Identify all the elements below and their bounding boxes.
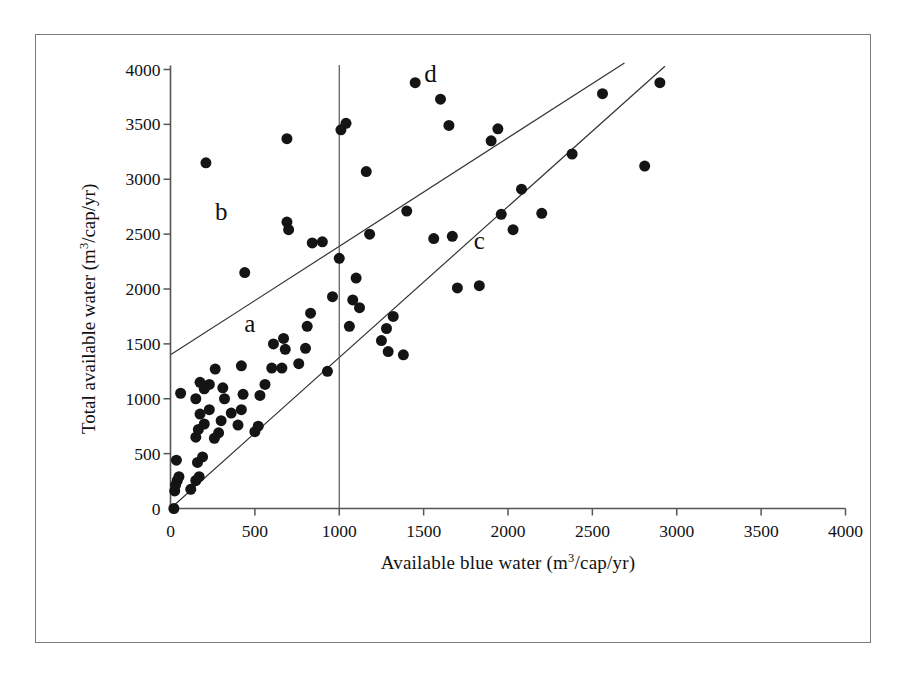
data-point (253, 421, 264, 432)
data-point (238, 389, 249, 400)
data-point (447, 231, 458, 242)
data-point (278, 333, 289, 344)
data-point (195, 377, 206, 388)
data-point (496, 209, 507, 220)
data-point (567, 149, 578, 160)
x-tick-label: 0 (166, 521, 175, 542)
data-point (260, 379, 271, 390)
data-point (344, 321, 355, 332)
data-point (443, 120, 454, 131)
x-tick-label: 2500 (575, 521, 610, 542)
data-point (216, 415, 227, 426)
data-point-group (168, 77, 665, 514)
x-tick-label: 1000 (322, 521, 357, 542)
data-point (210, 364, 221, 375)
data-point (173, 471, 184, 482)
data-point (197, 451, 208, 462)
data-point (639, 161, 650, 172)
data-point (341, 118, 352, 129)
data-point (536, 208, 547, 219)
y-tick-label: 4000 (119, 59, 161, 80)
y-tick-label: 1500 (119, 333, 161, 354)
x-tick-label: 4000 (828, 521, 863, 542)
data-point (508, 224, 519, 235)
data-point (217, 382, 228, 393)
data-point (516, 184, 527, 195)
data-point (317, 236, 328, 247)
x-tick-label: 3000 (659, 521, 694, 542)
data-point (293, 358, 304, 369)
y-tick-label: 500 (119, 443, 161, 464)
data-point (213, 427, 224, 438)
data-point (428, 233, 439, 244)
data-point (361, 166, 372, 177)
data-point (190, 393, 201, 404)
data-point (168, 503, 179, 514)
data-point (398, 349, 409, 360)
data-point (219, 393, 230, 404)
data-point (305, 308, 316, 319)
data-point (376, 335, 387, 346)
data-point (268, 338, 279, 349)
data-point (381, 323, 392, 334)
y-tick-label: 2000 (119, 279, 161, 300)
region-label-d: d (424, 60, 437, 88)
data-point (276, 363, 287, 374)
y-tick-label: 0 (119, 498, 161, 519)
data-point (334, 253, 345, 264)
data-point (654, 77, 665, 88)
data-point (254, 390, 265, 401)
data-point (401, 206, 412, 217)
data-point (199, 418, 210, 429)
data-point (300, 343, 311, 354)
data-point (283, 224, 294, 235)
data-point (307, 237, 318, 248)
y-tick-label: 1000 (119, 388, 161, 409)
data-point (233, 420, 244, 431)
data-point (452, 282, 463, 293)
data-point (388, 311, 399, 322)
data-point (327, 291, 338, 302)
figure-page: 0500100015002000250030003500400005001000… (0, 0, 904, 681)
data-point (302, 321, 313, 332)
data-point (281, 133, 292, 144)
data-point (435, 94, 446, 105)
data-point (204, 379, 215, 390)
data-point (474, 280, 485, 291)
data-point (364, 229, 375, 240)
data-point (280, 344, 291, 355)
data-point (171, 455, 182, 466)
lower-boundary-line (171, 66, 665, 508)
data-point (410, 77, 421, 88)
data-point (200, 157, 211, 168)
data-point (204, 404, 215, 415)
x-tick-label: 2000 (491, 521, 526, 542)
data-point (266, 363, 277, 374)
x-tick-label: 1500 (406, 521, 441, 542)
data-point (351, 273, 362, 284)
y-axis-title: Total available water (m3/cap/yr) (78, 183, 100, 433)
region-label-c: c (474, 227, 485, 255)
data-point (486, 135, 497, 146)
data-point (354, 302, 365, 313)
x-axis-title: Available blue water (m3/cap/yr) (171, 552, 846, 574)
data-point (194, 471, 205, 482)
data-point (492, 123, 503, 134)
region-label-b: b (215, 198, 228, 226)
x-tick-label: 3500 (744, 521, 779, 542)
y-tick-label: 3500 (119, 114, 161, 135)
data-point (236, 360, 247, 371)
data-point (175, 388, 186, 399)
data-point (322, 366, 333, 377)
x-tick-label: 500 (242, 521, 268, 542)
data-point (383, 346, 394, 357)
data-point (226, 408, 237, 419)
y-tick-label: 3000 (119, 169, 161, 190)
region-label-a: a (244, 310, 255, 338)
data-point (239, 267, 250, 278)
upper-boundary-line (171, 63, 625, 355)
data-point (236, 404, 247, 415)
data-point (597, 88, 608, 99)
y-tick-label: 2500 (119, 224, 161, 245)
